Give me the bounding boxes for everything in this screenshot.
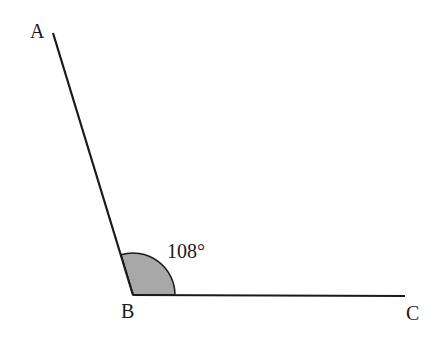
angle-value-label: 108°	[167, 240, 205, 262]
point-label-b: B	[121, 300, 134, 322]
ray-ba	[53, 33, 133, 295]
point-label-c: C	[406, 302, 419, 324]
angle-diagram: A B C 108°	[0, 0, 442, 341]
point-label-a: A	[30, 20, 45, 42]
ray-bc	[133, 295, 405, 296]
